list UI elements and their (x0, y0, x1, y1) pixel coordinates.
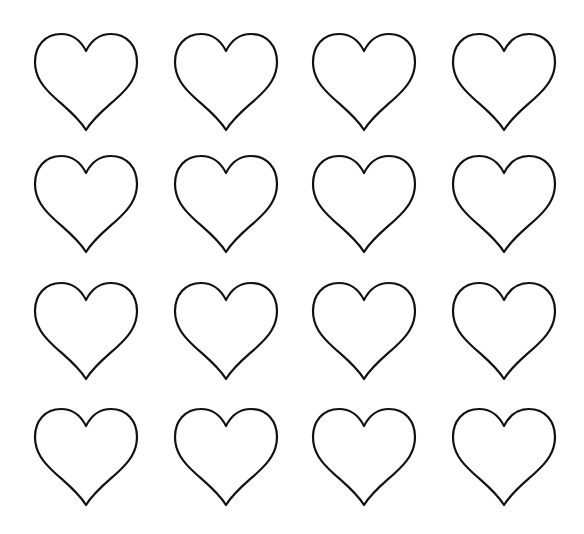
heart-outline-icon (33, 153, 139, 255)
heart-outline-icon (173, 406, 279, 508)
heart-shape (173, 31, 279, 133)
heart-sheet: { "page": { "background": "#ffffff", "ou… (0, 0, 584, 534)
heart-outline-icon (451, 406, 557, 508)
heart-shape (311, 153, 417, 255)
heart-shape (173, 280, 279, 382)
heart-shape (33, 406, 139, 508)
heart-shape (311, 280, 417, 382)
heart-outline-icon (33, 280, 139, 382)
heart-shape (451, 406, 557, 508)
heart-outline-icon (451, 153, 557, 255)
heart-outline-icon (173, 280, 279, 382)
heart-shape (173, 153, 279, 255)
heart-outline-icon (451, 280, 557, 382)
heart-shape (311, 31, 417, 133)
heart-outline-icon (173, 153, 279, 255)
heart-shape (451, 31, 557, 133)
heart-shape (33, 31, 139, 133)
heart-shape (451, 280, 557, 382)
heart-outline-icon (311, 406, 417, 508)
heart-outline-icon (451, 31, 557, 133)
heart-shape (173, 406, 279, 508)
heart-outline-icon (311, 153, 417, 255)
heart-outline-icon (311, 31, 417, 133)
heart-outline-icon (173, 31, 279, 133)
heart-outline-icon (311, 280, 417, 382)
heart-outline-icon (33, 406, 139, 508)
heart-shape (33, 280, 139, 382)
heart-shape (451, 153, 557, 255)
heart-shape (33, 153, 139, 255)
heart-shape (311, 406, 417, 508)
heart-outline-icon (33, 31, 139, 133)
